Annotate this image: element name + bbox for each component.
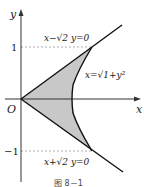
- x-axis-label: x: [136, 103, 143, 116]
- lower-line-label: x+√2 y=0: [44, 157, 90, 167]
- y-tick-1: 1: [11, 42, 17, 53]
- x-axis-arrow-icon: [134, 97, 141, 102]
- figure-caption: 图 8－1: [54, 179, 83, 187]
- y-axis-label: y: [9, 8, 17, 21]
- origin-label: O: [7, 103, 16, 116]
- upper-line-label: x−√2 y=0: [44, 33, 90, 43]
- y-axis-arrow-icon: [19, 9, 24, 16]
- y-tick-neg1: −1: [4, 146, 19, 157]
- hyperbola-label: x=√1+y²: [85, 70, 126, 80]
- region-diagram: y x O 1 −1 x−√2 y=0 x+√2 y=0 x=√1+y² 图 8…: [0, 0, 144, 187]
